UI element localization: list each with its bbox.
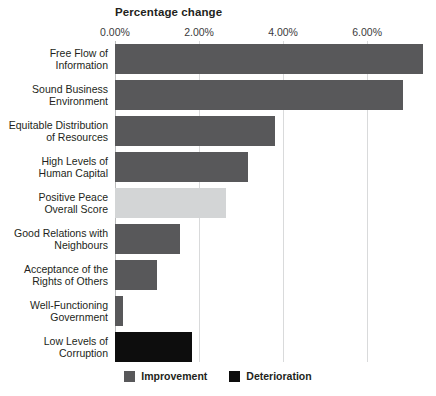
chart-legend: ImprovementDeterioration (0, 370, 436, 382)
bar-row (115, 296, 423, 326)
legend-swatch (229, 371, 240, 382)
bar-row (115, 260, 423, 290)
x-tick-label: 0.00% (100, 26, 130, 38)
category-label-row: Acceptance of the Rights of Others (0, 260, 108, 290)
legend-label: Deterioration (246, 370, 311, 382)
x-tick-label: 6.00% (352, 26, 382, 38)
bar[interactable] (115, 296, 123, 326)
bar-row (115, 44, 423, 74)
category-label-row: Sound Business Environment (0, 80, 108, 110)
bar-row (115, 188, 423, 218)
x-tick-label: 2.00% (184, 26, 214, 38)
category-label: Positive Peace Overall Score (39, 191, 108, 216)
category-label: Good Relations with Neighbours (14, 227, 108, 252)
plot-area (115, 44, 423, 362)
bar[interactable] (115, 152, 248, 182)
bar-row (115, 332, 423, 362)
category-label: Low Levels of Corruption (44, 335, 108, 360)
category-label-row: Positive Peace Overall Score (0, 188, 108, 218)
category-label: Sound Business Environment (32, 83, 108, 108)
percentage-change-bar-chart: Percentage change 0.00%2.00%4.00%6.00% F… (0, 0, 436, 396)
category-label-row: Free Flow of Information (0, 44, 108, 74)
bar[interactable] (115, 44, 423, 74)
bar-row (115, 116, 423, 146)
bar-row (115, 80, 423, 110)
x-axis-tick-labels: 0.00%2.00%4.00%6.00% (0, 26, 436, 40)
category-label: High Levels of Human Capital (39, 155, 108, 180)
category-label: Acceptance of the Rights of Others (24, 263, 108, 288)
category-label-row: Equitable Distribution of Resources (0, 116, 108, 146)
bar-row (115, 224, 423, 254)
category-labels: Free Flow of InformationSound Business E… (0, 44, 108, 368)
bar[interactable] (115, 332, 192, 362)
bar[interactable] (115, 188, 226, 218)
category-label-row: High Levels of Human Capital (0, 152, 108, 182)
bar[interactable] (115, 80, 403, 110)
bar-row (115, 152, 423, 182)
bar-rows (115, 44, 423, 368)
legend-swatch (124, 371, 135, 382)
category-label: Well-Functioning Government (30, 299, 108, 324)
category-label: Equitable Distribution of Resources (9, 119, 108, 144)
x-tick-label: 4.00% (268, 26, 298, 38)
legend-label: Improvement (141, 370, 207, 382)
bar[interactable] (115, 224, 180, 254)
bar[interactable] (115, 260, 157, 290)
legend-item[interactable]: Improvement (124, 370, 207, 382)
category-label-row: Good Relations with Neighbours (0, 224, 108, 254)
category-label-row: Low Levels of Corruption (0, 332, 108, 362)
chart-axis-title: Percentage change (115, 6, 222, 18)
category-label: Free Flow of Information (50, 47, 108, 72)
category-label-row: Well-Functioning Government (0, 296, 108, 326)
bar[interactable] (115, 116, 275, 146)
legend-item[interactable]: Deterioration (229, 370, 311, 382)
